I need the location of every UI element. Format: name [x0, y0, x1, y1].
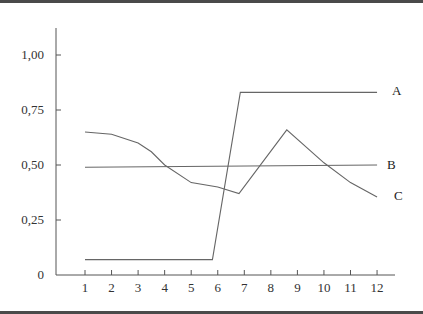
- x-tick-label: 1: [75, 280, 95, 296]
- x-tick-label: 4: [155, 280, 175, 296]
- y-tick-label: 0,75: [4, 102, 44, 118]
- y-ticks: [56, 55, 61, 220]
- x-tick-label: 11: [341, 280, 361, 296]
- x-tick-label: 3: [128, 280, 148, 296]
- series-label-a: A: [392, 83, 401, 99]
- x-tick-label: 12: [367, 280, 387, 296]
- y-tick-label: 0,25: [4, 212, 44, 228]
- chart-plot: [0, 0, 423, 314]
- x-ticks: [85, 270, 377, 275]
- x-tick-label: 6: [208, 280, 228, 296]
- series-lines: [85, 92, 377, 259]
- x-tick-label: 5: [181, 280, 201, 296]
- series-label-b: B: [387, 157, 396, 173]
- series-line-a: [85, 92, 377, 259]
- x-tick-label: 10: [314, 280, 334, 296]
- x-tick-label: 7: [234, 280, 254, 296]
- y-tick-label: 0,50: [4, 157, 44, 173]
- series-label-c: C: [394, 188, 403, 204]
- y-tick-label: 1,00: [4, 47, 44, 63]
- series-line-c: [85, 130, 377, 197]
- x-tick-label: 8: [261, 280, 281, 296]
- x-tick-label: 9: [287, 280, 307, 296]
- series-line-b: [85, 165, 377, 167]
- y-tick-label: 0: [4, 267, 44, 283]
- x-tick-label: 2: [102, 280, 122, 296]
